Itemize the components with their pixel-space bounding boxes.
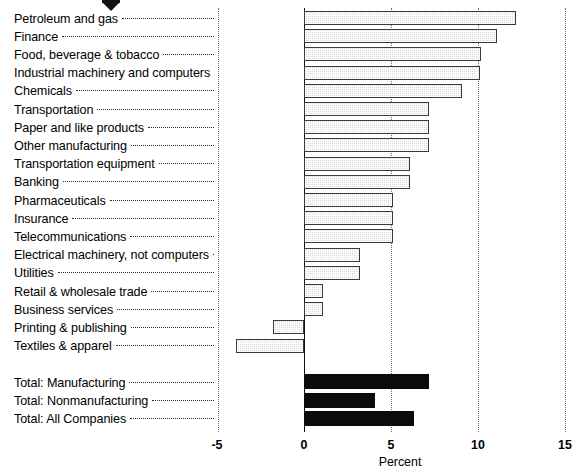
category-label: Transportation xyxy=(14,100,214,118)
bar xyxy=(273,320,304,334)
category-label: Total: All Companies xyxy=(14,410,214,428)
gridline-minus5 xyxy=(218,8,219,432)
leader-dots xyxy=(159,162,214,164)
category-label-text: Other manufacturing xyxy=(14,137,127,155)
leader-dots xyxy=(130,235,214,237)
bar xyxy=(304,138,429,152)
bar xyxy=(304,248,360,262)
category-label: Business services xyxy=(14,300,214,318)
bar xyxy=(304,66,480,80)
bar xyxy=(304,229,393,243)
bar xyxy=(304,211,393,225)
leader-dots xyxy=(130,417,214,419)
category-label-text: Finance xyxy=(14,28,58,46)
category-label: Electrical machinery, not computers xyxy=(14,246,214,264)
bar xyxy=(304,120,429,134)
leader-dots xyxy=(117,308,214,310)
category-label: Printing & publishing xyxy=(14,318,214,336)
bar xyxy=(304,157,410,171)
category-label: Pharmaceuticals xyxy=(14,191,214,209)
leader-dots xyxy=(213,253,214,255)
category-label-text: Total: Nonmanufacturing xyxy=(14,392,148,410)
category-label: Transportation equipment xyxy=(14,155,214,173)
leader-dots xyxy=(148,126,214,128)
bar xyxy=(304,374,429,389)
leader-dots xyxy=(72,217,214,219)
leader-dots xyxy=(63,180,214,182)
leader-dots xyxy=(97,108,214,110)
category-label-text: Transportation xyxy=(14,101,93,119)
x-tick-label: 10 xyxy=(458,438,498,452)
category-label: Other manufacturing xyxy=(14,136,214,154)
category-label-text: Total: Manufacturing xyxy=(14,374,125,392)
bar xyxy=(304,29,497,43)
category-label: Food, beverage & tobacco xyxy=(14,45,214,63)
leader-dots xyxy=(110,199,214,201)
category-label-text: Chemicals xyxy=(14,82,72,100)
bar xyxy=(304,175,410,189)
bar xyxy=(304,102,429,116)
leader-dots xyxy=(129,381,214,383)
leader-dots xyxy=(131,144,214,146)
category-label: Retail & wholesale trade xyxy=(14,282,214,300)
bar xyxy=(304,193,393,207)
category-label: Textiles & apparel xyxy=(14,337,214,355)
category-label: Insurance xyxy=(14,209,214,227)
bar xyxy=(304,47,481,61)
leader-dots xyxy=(58,271,214,273)
category-label-text: Food, beverage & tobacco xyxy=(14,46,159,64)
bar xyxy=(304,11,516,25)
leader-dots xyxy=(122,17,214,19)
category-label-text: Transportation equipment xyxy=(14,155,155,173)
category-label: Industrial machinery and computers xyxy=(14,64,214,82)
gridline-15 xyxy=(565,8,566,432)
bar xyxy=(236,339,304,353)
category-label-text: Pharmaceuticals xyxy=(14,192,106,210)
category-label-text: Textiles & apparel xyxy=(14,337,112,355)
bar-chart: Petroleum and gasFinanceFood, beverage &… xyxy=(0,0,579,473)
leader-dots xyxy=(76,89,214,91)
category-label: Telecommunications xyxy=(14,227,214,245)
category-label-text: Telecommunications xyxy=(14,228,126,246)
category-label-text: Total: All Companies xyxy=(14,410,126,428)
category-label: Banking xyxy=(14,173,214,191)
category-label: Petroleum and gas xyxy=(14,9,214,27)
x-tick-label: -5 xyxy=(197,438,237,452)
category-label-text: Retail & wholesale trade xyxy=(14,283,147,301)
bar xyxy=(304,84,462,98)
x-axis-title: Percent xyxy=(340,455,460,469)
category-label: Finance xyxy=(14,27,214,45)
category-label: Total: Manufacturing xyxy=(14,373,214,391)
category-label-text: Utilities xyxy=(14,264,54,282)
bar xyxy=(304,266,360,280)
leader-dots xyxy=(62,35,214,37)
category-label-text: Insurance xyxy=(14,210,68,228)
bar xyxy=(304,393,375,408)
category-label: Utilities xyxy=(14,264,214,282)
category-label-text: Paper and like products xyxy=(14,119,144,137)
leader-dots xyxy=(163,53,214,55)
leader-dots xyxy=(152,399,214,401)
x-tick-label: 0 xyxy=(284,438,324,452)
category-label-text: Electrical machinery, not computers xyxy=(14,246,209,264)
leader-dots xyxy=(151,290,214,292)
category-label: Paper and like products xyxy=(14,118,214,136)
category-label-text: Printing & publishing xyxy=(14,319,127,337)
bar xyxy=(304,302,323,316)
x-tick-label: 15 xyxy=(545,438,579,452)
bar xyxy=(304,411,414,426)
category-label-text: Industrial machinery and computers xyxy=(14,64,210,82)
category-label: Chemicals xyxy=(14,82,214,100)
category-label-text: Banking xyxy=(14,173,59,191)
category-label: Total: Nonmanufacturing xyxy=(14,392,214,410)
category-label-text: Business services xyxy=(14,301,113,319)
bar xyxy=(304,284,323,298)
x-tick-label: 5 xyxy=(371,438,411,452)
leader-dots xyxy=(131,326,214,328)
leader-dots xyxy=(116,344,214,346)
category-label-text: Petroleum and gas xyxy=(14,10,118,28)
